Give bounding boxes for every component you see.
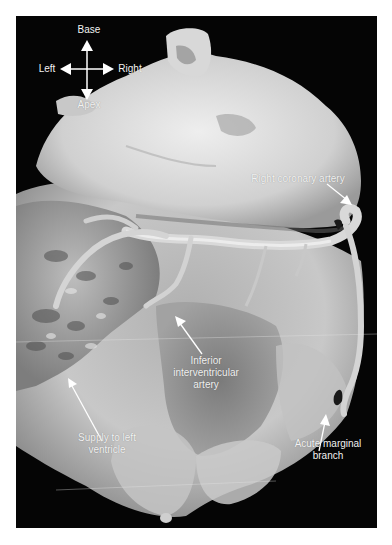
label-supply-to-left-ventricle: Supply to left ventricle bbox=[72, 432, 142, 456]
orientation-base-label: Base bbox=[76, 24, 102, 36]
label-right-coronary-artery: Right coronary artery bbox=[243, 173, 353, 185]
label-inferior-interventricular-artery: Inferior interventricular artery bbox=[170, 355, 242, 391]
orientation-right-label: Right bbox=[117, 63, 143, 75]
label-acute-marginal-branch: Acute marginal branch bbox=[292, 438, 364, 462]
orientation-apex-label: Apex bbox=[74, 99, 104, 111]
orientation-left-label: Left bbox=[36, 63, 58, 75]
